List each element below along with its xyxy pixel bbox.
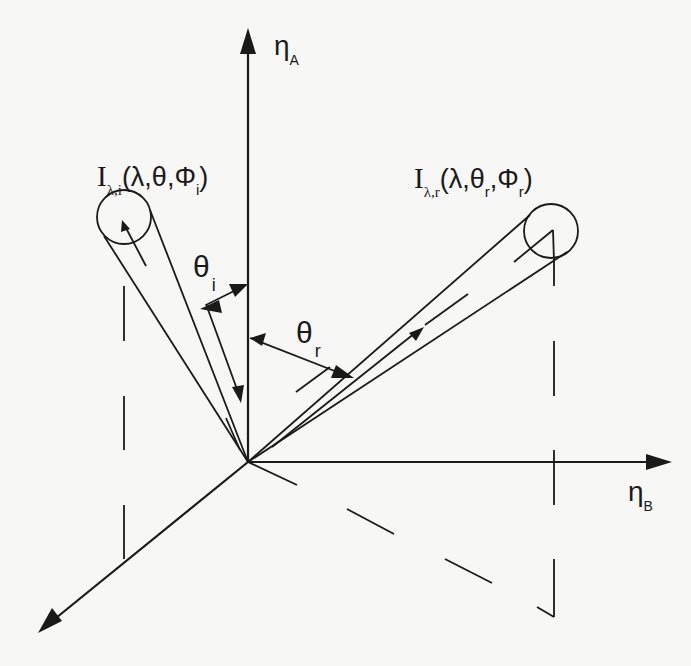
eta-symbol: η xyxy=(274,30,290,61)
diagonal-axis xyxy=(38,462,248,633)
axis-label-eta-b: ηB xyxy=(628,478,653,506)
reflected-intensity-label: Iλ,r(λ,θr,Φr) xyxy=(414,164,533,193)
brdf-diagram xyxy=(0,0,691,666)
axis-label-eta-a: ηA xyxy=(274,32,299,60)
arrow-down-left-icon xyxy=(38,608,62,633)
theta-r-label: θr xyxy=(296,318,321,348)
theta-i-label: θi xyxy=(193,252,216,282)
right-dashed-vertical xyxy=(537,259,554,617)
eta-a-subscript: A xyxy=(290,52,299,68)
eta-symbol: η xyxy=(628,476,644,507)
vertical-axis-eta-a xyxy=(240,28,256,462)
incident-cone xyxy=(97,190,248,462)
horizontal-axis-eta-b xyxy=(248,454,672,470)
incident-source-circle xyxy=(97,190,151,244)
eta-b-subscript: B xyxy=(644,498,653,514)
theta-i-arc-arrow xyxy=(200,284,248,313)
arrow-up-icon xyxy=(240,28,256,54)
arrow-right-icon xyxy=(646,454,672,470)
incident-intensity-label: Iλ,i(λ,θ,Φi) xyxy=(97,162,208,191)
dashed-diagonal-projection xyxy=(248,462,492,583)
